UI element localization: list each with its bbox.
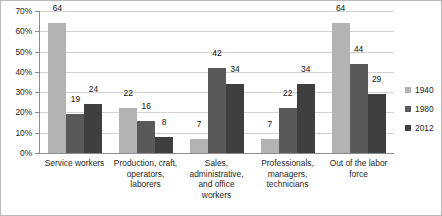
bar-value-label: 8 — [162, 117, 167, 127]
bar[interactable] — [368, 94, 386, 153]
x-axis-label: Service workers — [39, 158, 110, 200]
y-axis-tick — [35, 153, 40, 154]
bar-chart: 0%10%20%30%40%50%60%70% 6419242216874234… — [0, 0, 442, 216]
plot-wrapper: 0%10%20%30%40%50%60%70% 6419242216874234… — [39, 11, 394, 154]
y-axis-tick-label: 70% — [16, 6, 32, 16]
bar-slot: 34 — [297, 11, 315, 153]
bar-value-label: 42 — [212, 48, 221, 58]
bar-value-label: 34 — [301, 64, 310, 74]
legend-swatch — [405, 125, 411, 131]
bar[interactable] — [48, 23, 66, 153]
bar-group: 22168 — [111, 11, 182, 153]
y-axis-tick-label: 50% — [16, 47, 32, 57]
legend-label: 1940 — [415, 85, 434, 95]
bar[interactable] — [279, 108, 297, 153]
y-axis-tick-label: 0% — [20, 148, 32, 158]
bar[interactable] — [332, 23, 350, 153]
bar[interactable] — [84, 104, 102, 153]
bar-group: 644429 — [323, 11, 394, 153]
y-axis-tick-label: 10% — [16, 128, 32, 138]
x-axis-label: Out of the laborforce — [323, 158, 394, 200]
y-axis-tick-label: 40% — [16, 67, 32, 77]
bar-group: 72234 — [252, 11, 323, 153]
bar-slot: 16 — [137, 11, 155, 153]
bar[interactable] — [119, 108, 137, 153]
bar-group: 641924 — [40, 11, 111, 153]
x-axis-labels: Service workersProduction, craft,operato… — [39, 158, 394, 200]
legend-swatch — [405, 87, 411, 93]
legend: 194019802012 — [405, 85, 434, 142]
bar-value-label: 64 — [336, 3, 345, 13]
bar-value-label: 29 — [372, 74, 381, 84]
bar-value-label: 19 — [71, 94, 80, 104]
bar-value-label: 22 — [283, 88, 292, 98]
bar-group-bars: 72234 — [252, 11, 323, 153]
legend-label: 2012 — [415, 123, 434, 133]
legend-label: 1980 — [415, 104, 434, 114]
plot-area: 0%10%20%30%40%50%60%70% 6419242216874234… — [39, 11, 394, 154]
bar-value-label: 7 — [197, 119, 202, 129]
bar-group-bars: 641924 — [40, 11, 111, 153]
bar[interactable] — [155, 137, 173, 153]
bar-slot: 24 — [84, 11, 102, 153]
legend-item[interactable]: 1980 — [405, 104, 434, 114]
bar-group-bars: 644429 — [323, 11, 394, 153]
bar-slot: 22 — [279, 11, 297, 153]
bar-slot: 34 — [226, 11, 244, 153]
bar[interactable] — [261, 139, 279, 153]
bar-group-bars: 22168 — [111, 11, 182, 153]
bar-slot: 19 — [66, 11, 84, 153]
bar[interactable] — [297, 84, 315, 153]
bar-slot: 64 — [332, 11, 350, 153]
legend-swatch — [405, 106, 411, 112]
y-axis-tick-label: 30% — [16, 87, 32, 97]
legend-item[interactable]: 2012 — [405, 123, 434, 133]
bar-groups: 641924221687423472234644429 — [40, 11, 394, 153]
bar-slot: 8 — [155, 11, 173, 153]
bar-slot: 7 — [190, 11, 208, 153]
x-axis-label: Professionals,managers,technicians — [252, 158, 323, 200]
bar-value-label: 24 — [89, 84, 98, 94]
bar-group: 74234 — [182, 11, 253, 153]
bar-value-label: 34 — [230, 64, 239, 74]
bar-group-bars: 74234 — [182, 11, 253, 153]
bar-slot: 7 — [261, 11, 279, 153]
bar[interactable] — [66, 114, 84, 153]
bar[interactable] — [190, 139, 208, 153]
legend-item[interactable]: 1940 — [405, 85, 434, 95]
bar-slot: 42 — [208, 11, 226, 153]
bar-value-label: 22 — [124, 88, 133, 98]
y-axis-tick-label: 60% — [16, 26, 32, 36]
bar-value-label: 16 — [142, 101, 151, 111]
x-axis-label: Production, craft,operators,laborers — [110, 158, 181, 200]
bar[interactable] — [208, 68, 226, 153]
bar-slot: 29 — [368, 11, 386, 153]
bar-value-label: 64 — [53, 3, 62, 13]
bar-slot: 64 — [48, 11, 66, 153]
bar-value-label: 7 — [267, 119, 272, 129]
bar[interactable] — [137, 121, 155, 153]
bar[interactable] — [226, 84, 244, 153]
bar[interactable] — [350, 64, 368, 153]
bar-slot: 44 — [350, 11, 368, 153]
x-axis-label: Sales,administrative,and officeworkers — [181, 158, 252, 200]
y-axis-tick-label: 20% — [16, 107, 32, 117]
bar-value-label: 44 — [354, 44, 363, 54]
bar-slot: 22 — [119, 11, 137, 153]
